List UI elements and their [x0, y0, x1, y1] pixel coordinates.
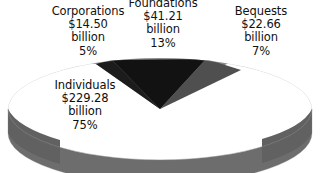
slice-label-corporations: Corporations $14.50 billion 5% [42, 5, 134, 58]
slice-label-corporations-percent: 5% [42, 45, 134, 58]
slice-label-foundations-unit: billion [122, 23, 204, 36]
slice-label-corporations-unit: billion [42, 31, 134, 44]
slice-label-foundations: Foundations $41.21 billion 13% [122, 0, 204, 50]
slice-label-bequests: Bequests $22.66 billion 7% [216, 5, 306, 58]
slice-label-bequests-unit: billion [216, 31, 306, 44]
slice-label-bequests-percent: 7% [216, 45, 306, 58]
slice-label-foundations-percent: 13% [122, 37, 204, 50]
slice-label-individuals-unit: billion [33, 105, 137, 118]
pie-chart: Corporations $14.50 billion 5% Foundatio… [0, 0, 321, 173]
slice-label-individuals: Individuals $229.28 billion 75% [33, 79, 137, 132]
slice-label-individuals-percent: 75% [33, 119, 137, 132]
